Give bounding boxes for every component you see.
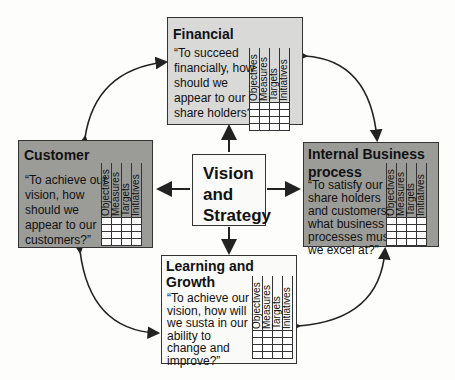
question-line: financially, how	[174, 61, 257, 76]
internal-question: “To satisfy our share holders and custom…	[308, 179, 392, 257]
vision-strategy-label: Vision and Strategy	[203, 163, 271, 226]
financial-question: “To succeed financially, how should we a…	[174, 46, 257, 121]
title-line: Internal Business	[308, 146, 425, 162]
question-line: appear to our	[174, 91, 257, 106]
question-line: share holders?”	[174, 106, 257, 121]
learning-growth-perspective-box: Learning and Growth “To achieve our visi…	[161, 255, 297, 364]
label-line: Vision	[203, 163, 271, 184]
label-line: and	[203, 184, 271, 205]
financial-title: Financial	[173, 26, 234, 42]
question-line: we susta in our	[167, 317, 249, 330]
column-header: Initiatives	[282, 287, 292, 329]
internal-scorecard-table: Objectives Measures Targets Initiatives	[386, 163, 427, 246]
question-line: we excel at?”	[308, 244, 392, 257]
learning-scorecard-table: Objectives Measures Targets Initiatives	[252, 276, 293, 359]
question-line: customers?”	[25, 233, 107, 248]
question-line: improve?”	[167, 355, 249, 368]
question-line: change and	[167, 342, 249, 355]
question-line: “To achieve our	[167, 292, 249, 305]
title-line: Learning and	[166, 258, 254, 274]
customer-title: Customer	[24, 147, 89, 163]
internal-business-perspective-box: Internal Business process “To satisfy ou…	[303, 142, 439, 247]
label-line: Strategy	[203, 205, 271, 226]
learning-title: Learning and Growth	[166, 258, 254, 290]
customer-scorecard-table: Objectives Measures Targets Initiatives	[101, 163, 142, 246]
title-line: Growth	[166, 274, 254, 290]
column-header: Initiatives	[279, 59, 289, 101]
question-line: “To succeed	[174, 46, 257, 61]
column-header: Initiatives	[131, 174, 141, 216]
question-line: appear to our	[25, 218, 107, 233]
customer-question: “To achieve our vision, how should we ap…	[25, 173, 107, 248]
learning-question: “To achieve our vision, how will we sust…	[167, 292, 249, 367]
question-line: vision, how	[25, 188, 107, 203]
column-header: Initiatives	[416, 174, 426, 216]
vision-strategy-box: Vision and Strategy	[192, 154, 266, 226]
question-line: should we	[174, 76, 257, 91]
financial-scorecard-table: Objectives Measures Targets Initiatives	[249, 48, 290, 131]
question-line: should we	[25, 203, 107, 218]
financial-perspective-box: Financial “To succeed financially, how s…	[167, 17, 303, 125]
customer-perspective-box: Customer “To achieve our vision, how sho…	[18, 140, 153, 248]
question-line: “To achieve our	[25, 173, 107, 188]
